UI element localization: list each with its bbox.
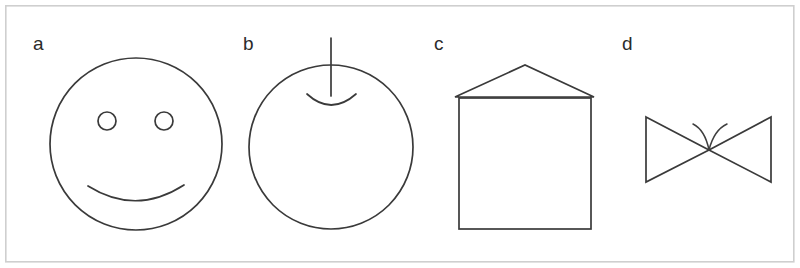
panel-label-c: c: [434, 33, 444, 54]
panel-label-a: a: [33, 33, 44, 54]
panel-label-b: b: [243, 33, 254, 54]
figure-canvas: a b c d: [0, 0, 800, 268]
panel-label-d: d: [622, 33, 633, 54]
outer-border: [6, 6, 794, 262]
figure-panel: a b c d: [0, 0, 800, 268]
